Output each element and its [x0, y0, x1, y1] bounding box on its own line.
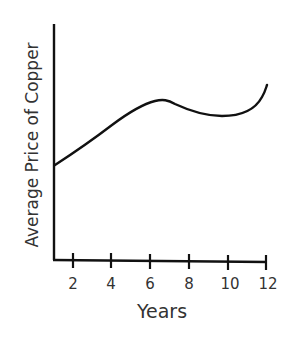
price-curve: [55, 85, 267, 165]
x-tick-label: 12: [258, 275, 277, 293]
x-tick-label: 4: [106, 275, 116, 293]
x-tick-label: 2: [68, 275, 78, 293]
chart-canvas: 2 4 6 8 10 12 Years Average Price of Cop…: [0, 0, 297, 348]
x-axis-label: Years: [136, 300, 187, 322]
x-tick-label: 8: [184, 275, 194, 293]
y-axis-label: Average Price of Copper: [22, 42, 42, 247]
x-tick-label: 10: [220, 275, 239, 293]
x-axis: [53, 260, 267, 262]
x-tick-label: 6: [145, 275, 155, 293]
